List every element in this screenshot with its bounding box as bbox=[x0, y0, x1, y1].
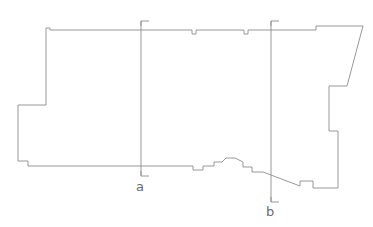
section-label-a: a bbox=[136, 180, 144, 193]
drawing-background bbox=[0, 0, 373, 227]
plan-drawing bbox=[0, 0, 373, 227]
section-label-b: b bbox=[266, 205, 274, 218]
figure-container: a b bbox=[0, 0, 373, 227]
